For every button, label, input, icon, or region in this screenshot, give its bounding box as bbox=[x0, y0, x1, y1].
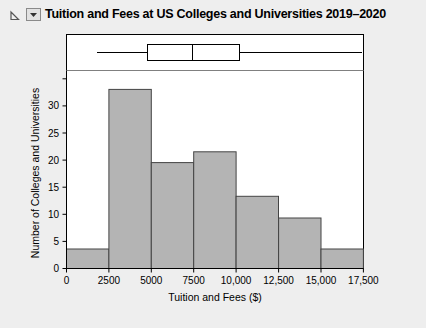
bar-bin-2 bbox=[109, 89, 151, 268]
y-tick-label: 20 bbox=[48, 155, 60, 166]
bar-bin-1 bbox=[67, 249, 109, 269]
boxplot-box bbox=[148, 45, 240, 61]
window-titlebar: Tuition and Fees at US Colleges and Univ… bbox=[0, 0, 426, 28]
x-tick-label: 5000 bbox=[140, 275, 163, 286]
page-title: Tuition and Fees at US Colleges and Univ… bbox=[45, 8, 386, 21]
x-axis-title: Tuition and Fees ($) bbox=[168, 291, 262, 303]
triangle-icon[interactable] bbox=[9, 8, 21, 20]
y-tick-label: 5 bbox=[53, 236, 59, 247]
x-axis-ticks bbox=[67, 269, 364, 273]
x-tick-label: 0 bbox=[64, 275, 70, 286]
x-tick-label: 12,500 bbox=[263, 275, 294, 286]
x-tick-label: 10,000 bbox=[221, 275, 252, 286]
chart-canvas: 0 5 10 15 20 25 30 0 2500 bbox=[0, 28, 426, 328]
bar-bin-7 bbox=[321, 249, 363, 269]
x-tick-label: 17,500 bbox=[348, 275, 379, 286]
chevron-down-icon[interactable] bbox=[26, 8, 41, 21]
y-tick-label: 0 bbox=[53, 263, 59, 274]
bar-bin-4 bbox=[194, 152, 236, 269]
x-axis-tick-labels: 0 2500 5000 7500 10,000 12,500 15,000 17… bbox=[64, 275, 379, 286]
histogram-boxplot-figure: 0 5 10 15 20 25 30 0 2500 bbox=[0, 28, 426, 328]
y-tick-label: 30 bbox=[48, 100, 60, 111]
y-axis-ticks bbox=[63, 79, 67, 269]
y-tick-label: 25 bbox=[48, 128, 60, 139]
y-axis-title: Number of Colleges and Universities bbox=[29, 88, 41, 258]
x-tick-label: 2500 bbox=[98, 275, 121, 286]
y-tick-label: 15 bbox=[48, 182, 60, 193]
x-tick-label: 7500 bbox=[183, 275, 206, 286]
x-tick-label: 15,000 bbox=[306, 275, 337, 286]
y-axis-tick-labels: 0 5 10 15 20 25 30 bbox=[48, 100, 60, 274]
chart-window: Tuition and Fees at US Colleges and Univ… bbox=[0, 0, 426, 328]
y-tick-label: 10 bbox=[48, 209, 60, 220]
bar-bin-3 bbox=[151, 163, 193, 269]
bar-bin-6 bbox=[279, 218, 321, 269]
bar-bin-5 bbox=[236, 196, 278, 268]
